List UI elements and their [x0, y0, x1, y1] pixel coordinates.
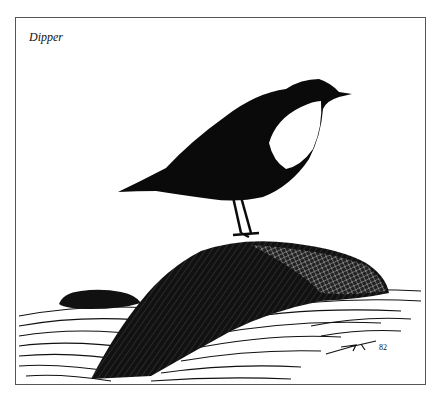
artist-signature — [326, 341, 376, 354]
signature-year: 82 — [379, 343, 387, 352]
dipper-bird — [118, 79, 352, 201]
bird-legs — [233, 197, 259, 237]
dipper-illustration: 82 — [16, 18, 426, 385]
small-rock — [59, 290, 141, 309]
illustration-frame: Dipper — [15, 17, 426, 385]
